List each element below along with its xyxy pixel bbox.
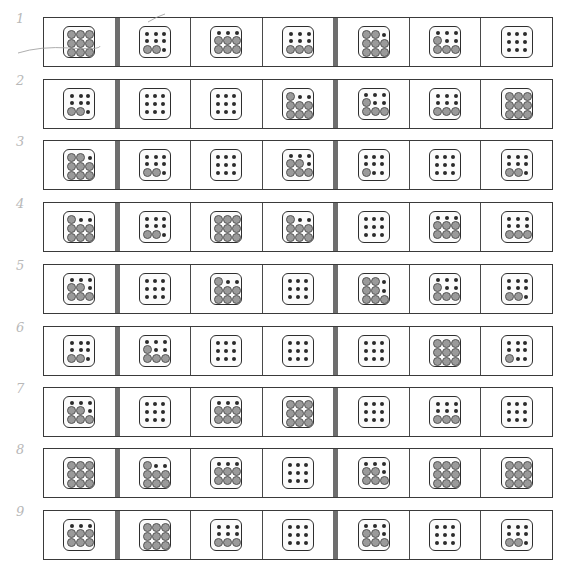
- pattern-cell: [44, 18, 115, 66]
- gray-circle-icon: [451, 107, 460, 116]
- dark-dot-icon: [514, 277, 523, 285]
- dark-dot-icon: [378, 215, 386, 223]
- gray-circle-icon: [304, 233, 313, 242]
- gray-circle-icon: [433, 36, 442, 45]
- dark-dot-icon: [286, 523, 294, 531]
- gray-circle-icon: [371, 529, 380, 538]
- gray-circle-icon: [362, 476, 371, 485]
- dark-dot-icon: [514, 531, 523, 539]
- pattern-cell: [115, 511, 191, 559]
- dot-matrix-icon: [501, 211, 533, 243]
- gray-circle-icon: [433, 339, 442, 348]
- pattern-cell: [44, 203, 115, 251]
- dark-dot-icon: [230, 169, 238, 177]
- dark-dot-icon: [505, 223, 514, 231]
- gray-circle-icon: [380, 295, 389, 304]
- dark-dot-icon: [151, 400, 159, 408]
- pattern-cell: [115, 388, 191, 436]
- row-number-label: 9: [16, 504, 24, 519]
- dark-dot-icon: [214, 355, 222, 363]
- gray-circle-icon: [371, 107, 380, 116]
- dark-dot-icon: [85, 92, 91, 100]
- dark-dot-icon: [151, 108, 159, 116]
- dark-dot-icon: [143, 215, 152, 223]
- dark-dot-icon: [505, 523, 514, 531]
- gray-circle-icon: [304, 418, 313, 427]
- dark-dot-icon: [449, 523, 457, 531]
- dark-dot-icon: [513, 38, 521, 46]
- dark-dot-icon: [143, 400, 151, 408]
- gray-circle-icon: [442, 461, 451, 470]
- dark-dot-icon: [523, 153, 529, 161]
- dark-dot-icon: [505, 347, 514, 355]
- pattern-cell: [262, 141, 334, 189]
- gray-circle-icon: [232, 224, 241, 233]
- pattern-cell: [262, 203, 334, 251]
- dark-dot-icon: [378, 223, 386, 231]
- gray-circle-icon: [67, 292, 76, 301]
- dark-dot-icon: [441, 161, 449, 169]
- gray-circle-icon: [371, 467, 380, 476]
- gray-circle-icon: [161, 470, 170, 479]
- dark-dot-icon: [152, 153, 161, 161]
- dark-dot-icon: [214, 523, 223, 531]
- gray-circle-icon: [67, 479, 76, 488]
- dot-matrix-icon: [139, 457, 171, 489]
- gray-circle-icon: [514, 92, 523, 101]
- dark-dot-icon: [442, 408, 451, 416]
- dark-dot-icon: [449, 169, 457, 177]
- gray-circle-icon: [214, 215, 223, 224]
- gray-circle-icon: [67, 107, 76, 116]
- dark-dot-icon: [286, 38, 295, 46]
- gray-circle-icon: [505, 470, 514, 479]
- dark-dot-icon: [302, 523, 310, 531]
- dark-dot-icon: [85, 339, 91, 347]
- dark-dot-icon: [370, 408, 378, 416]
- pattern-cell: [190, 80, 262, 128]
- pattern-cell: [333, 265, 409, 313]
- gray-circle-icon: [223, 467, 232, 476]
- gray-circle-icon: [433, 470, 442, 479]
- gray-circle-icon: [76, 529, 85, 538]
- dark-dot-icon: [76, 100, 85, 108]
- gray-circle-icon: [514, 110, 523, 119]
- pattern-row: 8: [0, 448, 574, 502]
- dark-dot-icon: [441, 531, 449, 539]
- gray-circle-icon: [451, 45, 460, 54]
- dark-dot-icon: [294, 293, 302, 301]
- gray-circle-icon: [380, 39, 389, 48]
- dark-dot-icon: [521, 416, 529, 424]
- dot-matrix-icon: [139, 26, 171, 58]
- dot-matrix-icon: [358, 519, 390, 551]
- dark-dot-icon: [222, 100, 230, 108]
- gray-circle-icon: [214, 233, 223, 242]
- gray-circle-icon: [523, 230, 532, 239]
- dark-dot-icon: [143, 285, 151, 293]
- gray-circle-icon: [514, 292, 523, 301]
- dot-matrix-icon: [429, 88, 461, 120]
- gray-circle-icon: [85, 48, 94, 57]
- gray-circle-icon: [442, 230, 451, 239]
- gray-circle-icon: [161, 532, 170, 541]
- dark-dot-icon: [295, 215, 304, 224]
- dark-dot-icon: [294, 277, 302, 285]
- pattern-cell: [44, 449, 115, 497]
- dark-dot-icon: [441, 153, 449, 161]
- dark-dot-icon: [362, 161, 371, 169]
- dot-matrix-icon: [139, 211, 171, 243]
- dark-dot-icon: [513, 416, 521, 424]
- dark-dot-icon: [523, 531, 529, 539]
- pattern-cell: [190, 388, 262, 436]
- dot-matrix-icon: [210, 519, 242, 551]
- gray-circle-icon: [505, 101, 514, 110]
- pattern-strip: [43, 510, 553, 560]
- gray-circle-icon: [514, 461, 523, 470]
- dot-matrix-icon: [429, 335, 461, 367]
- gray-circle-icon: [232, 467, 241, 476]
- gray-circle-icon: [67, 48, 76, 57]
- gray-circle-icon: [85, 292, 94, 301]
- gray-circle-icon: [433, 415, 442, 424]
- dot-matrix-icon: [501, 88, 533, 120]
- gray-circle-icon: [223, 415, 232, 424]
- dot-matrix-icon: [501, 335, 533, 367]
